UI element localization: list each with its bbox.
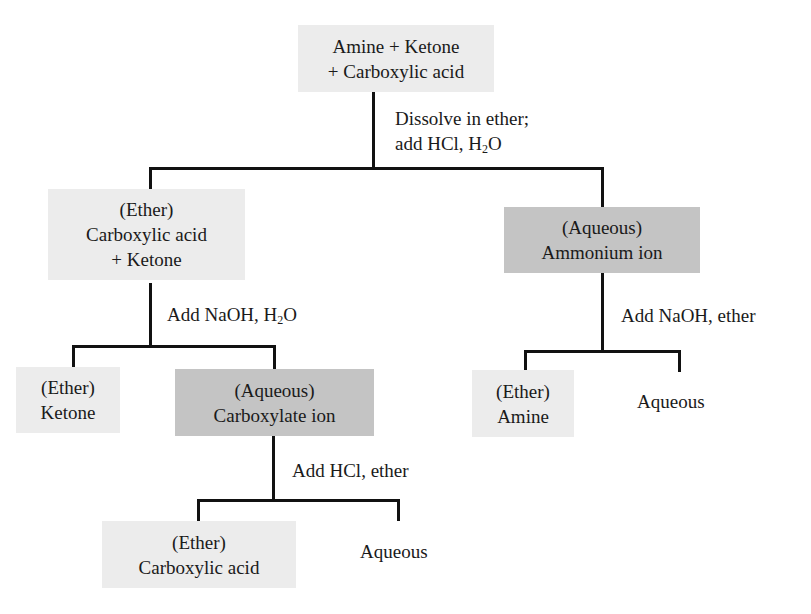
connector (397, 499, 400, 521)
connector (197, 499, 400, 502)
connector (601, 273, 604, 353)
connector (72, 345, 75, 367)
root-line2: + Carboxylic acid (328, 59, 464, 84)
connector (149, 167, 604, 170)
aqueous-waste-label: Aqueous (360, 539, 428, 564)
aqueous-carboxylate-box: (Aqueous) Carboxylate ion (175, 369, 374, 436)
ether-amine-box: (Ether) Amine (472, 370, 574, 437)
step4-label: Add NaOH, ether (621, 303, 756, 328)
connector (678, 350, 681, 372)
aqueous-ammonium-box: (Aqueous) Ammonium ion (504, 207, 700, 273)
connector (149, 283, 152, 348)
connector (197, 499, 200, 521)
ether-carboxylic-acid-box: (Ether) Carboxylic acid (102, 521, 296, 588)
connector (524, 350, 527, 371)
root-mixture-box: Amine + Ketone + Carboxylic acid (298, 25, 494, 92)
connector (524, 350, 681, 353)
connector (72, 345, 276, 348)
step3-label: Add HCl, ether (292, 458, 409, 483)
connector (272, 436, 275, 502)
connector (273, 345, 276, 369)
connector (372, 92, 375, 170)
aqueous-waste-label: Aqueous (637, 389, 705, 414)
connector (149, 167, 152, 189)
root-line1: Amine + Ketone (333, 34, 460, 59)
step1-label: Dissolve in ether; add HCl, H2O (395, 106, 529, 156)
ether-ketone-box: (Ether) Ketone (16, 367, 120, 433)
connector (601, 167, 604, 207)
step2-label: Add NaOH, H2O (167, 302, 297, 327)
ether-acid-ketone-box: (Ether) Carboxylic acid + Ketone (48, 189, 245, 280)
